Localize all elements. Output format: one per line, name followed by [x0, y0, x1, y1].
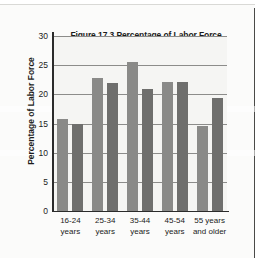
- bar-2001-55-years-and-older[interactable]: [197, 126, 208, 211]
- bar-2011-16-24-years[interactable]: [72, 124, 83, 212]
- bar-group: [192, 36, 227, 211]
- x-tick-label: 25-34years: [88, 215, 123, 237]
- bar-2011-45-54-years[interactable]: [177, 82, 188, 211]
- bar-2011-55-years-and-older[interactable]: [212, 98, 223, 211]
- x-tick-label: 55 yearsand older: [192, 215, 227, 237]
- bar-groups: [53, 36, 227, 211]
- x-tick-label: 16-24years: [53, 215, 88, 237]
- bar-2001-16-24-years[interactable]: [57, 119, 68, 211]
- x-tick-label: 45-54years: [157, 215, 192, 237]
- scanned-page: Figure 17.3 Percentage of Labor Force by…: [0, 0, 258, 268]
- page-right-rule: [254, 8, 255, 264]
- bar-2001-25-34-years[interactable]: [92, 78, 103, 211]
- y-tick-label: 10: [32, 148, 48, 158]
- plot-area: 302520151050: [53, 36, 227, 211]
- bar-2011-25-34-years[interactable]: [107, 83, 118, 211]
- x-axis-labels: 16-24years25-34years35-44years45-54years…: [53, 215, 227, 237]
- bar-group: [123, 36, 158, 211]
- y-tick-label: 20: [32, 89, 48, 99]
- bar-chart: Figure 17.3 Percentage of Labor Force by…: [8, 10, 248, 258]
- bar-group: [88, 36, 123, 211]
- bar-2001-35-44-years[interactable]: [127, 62, 138, 211]
- page-top-rule: [0, 4, 258, 5]
- x-tick-label: 35-44years: [123, 215, 158, 237]
- y-tick-label: 25: [32, 60, 48, 70]
- page-bottom-margin: [0, 258, 258, 268]
- bar-2001-45-54-years[interactable]: [162, 82, 173, 211]
- y-tick-label: 5: [32, 177, 48, 187]
- bar-2011-35-44-years[interactable]: [142, 89, 153, 211]
- y-tick-label: 15: [32, 119, 48, 129]
- bar-group: [157, 36, 192, 211]
- y-tick-label: 30: [32, 31, 48, 41]
- page-right-margin: [255, 0, 258, 268]
- bar-group: [53, 36, 88, 211]
- y-tick-label: 0: [32, 206, 48, 216]
